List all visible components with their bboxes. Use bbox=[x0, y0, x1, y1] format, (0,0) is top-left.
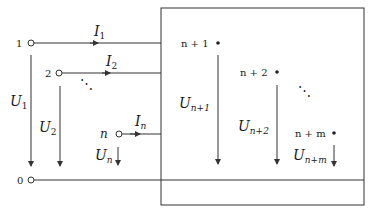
terminal-0-label: 0 bbox=[17, 175, 23, 186]
node-n-plus-1: n + 1 Un+1 bbox=[179, 38, 220, 164]
terminal-1: 1 I1 U1 bbox=[10, 23, 161, 166]
terminal-2-label: 2 bbox=[45, 68, 51, 79]
voltage-label-n-plus-2: Un+2 bbox=[238, 118, 269, 136]
voltage-label-2: U2 bbox=[39, 119, 57, 137]
terminal-1-label: 1 bbox=[16, 38, 22, 49]
terminal-n-circle bbox=[116, 131, 122, 137]
network-diagram: 0 1 I1 U1 2 I2 U2 ⋱ n In Un n + 1 bbox=[0, 0, 371, 217]
voltage-label-1: U1 bbox=[10, 93, 28, 111]
terminal-1-circle bbox=[28, 40, 34, 46]
current-label-1: I1 bbox=[93, 23, 105, 41]
node-n-plus-m-dot bbox=[332, 131, 336, 135]
terminal-0: 0 bbox=[17, 175, 364, 186]
ellipsis-inputs: ⋱ bbox=[80, 76, 93, 91]
terminal-n-label: n bbox=[100, 127, 108, 141]
node-n-plus-1-dot bbox=[216, 41, 220, 45]
current-label-n: In bbox=[134, 113, 147, 131]
node-n-plus-m: n + m Un+m bbox=[293, 128, 336, 166]
node-n-plus-1-label: n + 1 bbox=[181, 38, 209, 49]
terminal-0-circle bbox=[28, 177, 34, 183]
voltage-label-n-plus-m: Un+m bbox=[293, 147, 327, 165]
terminal-2-circle bbox=[56, 70, 62, 76]
ellipsis-internal: ⋱ bbox=[298, 83, 311, 98]
node-n-plus-m-label: n + m bbox=[295, 128, 326, 139]
node-n-plus-2-dot bbox=[275, 70, 279, 74]
current-label-2: I2 bbox=[105, 53, 117, 71]
voltage-label-n-plus-1: Un+1 bbox=[179, 95, 210, 113]
node-n-plus-2: n + 2 Un+2 bbox=[238, 67, 279, 164]
terminal-n: n In Un bbox=[95, 113, 161, 165]
node-n-plus-2-label: n + 2 bbox=[240, 67, 268, 78]
voltage-label-n: Un bbox=[95, 147, 113, 165]
